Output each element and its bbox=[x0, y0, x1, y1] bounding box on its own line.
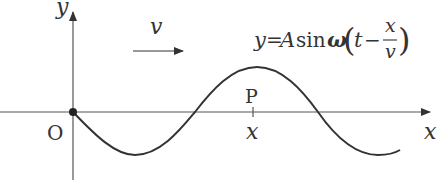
wave-curve bbox=[73, 67, 400, 155]
equation-minus: − bbox=[364, 28, 381, 52]
x-axis-label: x bbox=[424, 119, 437, 144]
origin-dot bbox=[69, 108, 77, 116]
equation-numerator: x bbox=[385, 14, 396, 36]
wave-diagram: y x O v P x y = A sin ω ( t − x v ) bbox=[0, 0, 446, 184]
velocity-label: v bbox=[150, 14, 163, 39]
equation-sin: sin bbox=[296, 28, 326, 52]
equation-amplitude: A bbox=[278, 28, 295, 52]
point-p-label: P bbox=[245, 85, 258, 107]
point-p-position-label: x bbox=[246, 119, 259, 144]
equation-rparen: ) bbox=[398, 21, 410, 59]
equation-denominator: v bbox=[385, 40, 396, 62]
equation-t: t bbox=[354, 28, 363, 52]
equation-lhs: y bbox=[253, 28, 267, 52]
y-axis-label: y bbox=[55, 0, 69, 19]
wave-equation: y = A sin ω ( t − x v ) bbox=[253, 14, 410, 62]
origin-label: O bbox=[47, 121, 63, 145]
